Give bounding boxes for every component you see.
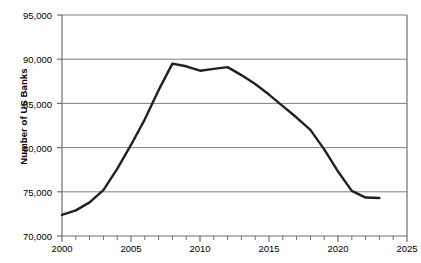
gridlines: [62, 15, 407, 192]
chart-container: Number of US Banks 95,000 90,000 85,000 …: [0, 0, 421, 263]
y-axis-ticks: [57, 15, 62, 236]
x-axis-major-ticks: [62, 236, 407, 242]
x-axis-minor-ticks: [76, 236, 393, 240]
plot-area: [0, 0, 421, 263]
